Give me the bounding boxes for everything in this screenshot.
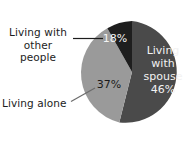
pie-label-line-1: Living (137, 44, 189, 57)
pie-value-18: 18% (98, 32, 132, 45)
pie-label-line-3: people (4, 51, 72, 64)
pie-value-37: 37% (92, 78, 126, 91)
pie-label-line-2: other (4, 39, 72, 52)
pie-value-46: 46% (137, 83, 189, 96)
pie-chart-figure: Living with other people Living alone Li… (0, 0, 193, 141)
pie-label-living-with-other-people: Living with other people (4, 26, 72, 64)
pie-label-living-with-spouse: Living with spouse 46% (137, 44, 189, 96)
pie-label-living-alone: Living alone (2, 97, 78, 110)
pie-label-line-3: spouse (137, 70, 189, 83)
pie-label-line-2: with (137, 57, 189, 70)
pie-label-line-1: Living with (4, 26, 72, 39)
